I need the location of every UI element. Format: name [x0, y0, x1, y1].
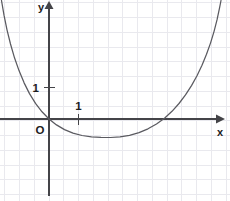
x-axis-label: x	[217, 126, 224, 138]
parabola-figure: 1 1 O x y	[0, 0, 230, 201]
x-axis-tick-label-1: 1	[75, 100, 82, 112]
y-axis-label: y	[38, 1, 45, 13]
y-axis-tick-label-1: 1	[33, 82, 40, 94]
origin-label: O	[36, 124, 45, 136]
graph-canvas: 1 1 O x y	[0, 0, 230, 201]
